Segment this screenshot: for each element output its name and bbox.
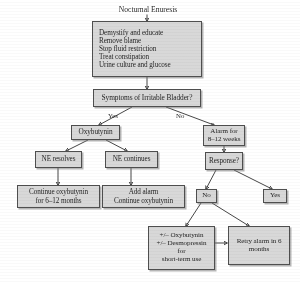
diagram-title: Nocturnal Enuresis [100,6,196,14]
initial-line-1: Demystify and educate [99,29,163,37]
ne-resolves-label: NE resolves [42,155,76,163]
initial-line-5: Urine culture and glucose [99,61,171,69]
response-yes-label: Yes [270,192,280,200]
node-oxybutynin[interactable]: Oxybutynin [71,125,120,140]
initial-line-3: Stop fluid restriction [99,45,156,53]
response-label: Response? [209,157,239,165]
initial-line-2: Remove blame [99,37,141,45]
node-retry-alarm[interactable]: Retry alarm in 6 months [228,226,290,265]
node-desmopressin[interactable]: +/– Oxybutynin +/– Desmopressin for shor… [148,226,215,270]
edge-label-no-text: No [176,112,184,119]
node-ne-resolves[interactable]: NE resolves [35,151,82,168]
node-symptoms-irritable-bladder[interactable]: Symptoms of Irritable Bladder? [93,89,201,107]
ne-continues-label: NE continues [113,155,151,163]
add-alarm-line-1: Add alarm [129,188,159,196]
node-initial-management[interactable]: Demystify and educate Remove blame Stop … [92,21,202,77]
diagram-title-text: Nocturnal Enuresis [119,5,177,14]
edge-label-yes: Yes [108,113,118,120]
initial-line-4: Treat constipation [99,53,149,61]
response-no-label: No [202,192,210,200]
continue-oxy-line-1: Continue oxybutynin [29,188,88,196]
continue-oxy-line-2: for 6–12 months [35,197,81,205]
node-response-yes[interactable]: Yes [263,189,287,203]
desmopressin-line-4: short-term use [162,256,201,264]
oxybutynin-label: Oxybutynin [79,128,113,136]
alarm-line-2: 8–12 weeks [208,136,241,144]
edge-label-yes-text: Yes [108,112,118,119]
flowchart-canvas: Nocturnal Enuresis Demystify and educate… [0,0,300,282]
node-response[interactable]: Response? [205,152,243,170]
node-ne-continues[interactable]: NE continues [105,151,158,168]
edge-label-no: No [176,113,184,120]
node-add-alarm[interactable]: Add alarm Continue oxybutynin [102,185,185,208]
node-response-no[interactable]: No [196,189,217,203]
symptoms-label: Symptoms of Irritable Bladder? [102,94,193,102]
retry-line-2: months [249,246,269,254]
node-alarm-8-12-weeks[interactable]: Alarm for 8–12 weeks [203,125,245,146]
add-alarm-line-2: Continue oxybutynin [114,197,173,205]
node-continue-oxybutynin[interactable]: Continue oxybutynin for 6–12 months [17,185,100,208]
